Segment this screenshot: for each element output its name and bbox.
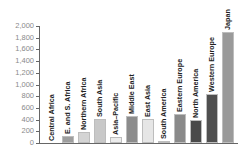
bar-label: East Asia	[144, 85, 152, 117]
y-tick	[36, 26, 40, 27]
bar-japan	[222, 32, 234, 143]
y-tick	[36, 73, 40, 74]
bar-east-asia	[142, 119, 154, 143]
y-tick-label: 200	[4, 127, 34, 135]
bar-label: Central Africa	[48, 94, 56, 141]
y-tick	[36, 61, 40, 62]
bar-south-asia	[94, 119, 106, 143]
y-tick	[36, 96, 40, 97]
y-tick-label: 0	[4, 139, 34, 147]
y-tick	[36, 131, 40, 132]
bar-eastern-europe	[174, 114, 186, 143]
y-tick-label: 600	[4, 104, 34, 112]
y-tick-label: 1,600	[4, 45, 34, 53]
y-tick-label: 1,200	[4, 69, 34, 77]
y-tick	[36, 38, 40, 39]
bar-label: E. and S. Africa	[64, 82, 72, 134]
bar-north-america	[190, 120, 202, 143]
bar-label: Japan	[224, 9, 232, 30]
bar-e-and-s-africa	[62, 136, 74, 143]
bar-label: North America	[192, 69, 200, 118]
y-tick	[36, 85, 40, 86]
y-tick-label: 800	[4, 92, 34, 100]
y-tick-label: 2,000	[4, 22, 34, 30]
x-axis-line	[39, 143, 238, 144]
bar-asia-pacific	[110, 137, 122, 143]
y-tick	[36, 49, 40, 50]
y-tick-label: 1,800	[4, 34, 34, 42]
bar-south-america	[158, 141, 170, 143]
bar-label: Eastern Europe	[176, 59, 184, 112]
bar-label: South Asia	[96, 80, 104, 117]
bar-label: Middle East	[128, 74, 136, 114]
bar-label: Asia–Pacific	[112, 93, 120, 135]
bar-label: Northern Africa	[80, 78, 88, 130]
bar-western-europe	[206, 94, 218, 143]
bar-northern-africa	[78, 132, 90, 143]
bar-label: South America	[160, 89, 168, 139]
y-tick-label: 1,400	[4, 57, 34, 65]
y-tick	[36, 108, 40, 109]
bar-chart: 02004006008001,0001,2001,4001,6001,8002,…	[0, 0, 242, 147]
y-tick	[36, 120, 40, 121]
y-tick-label: 1,000	[4, 81, 34, 89]
bar-label: Western Europe	[208, 37, 216, 92]
bar-middle-east	[126, 116, 138, 143]
y-tick-label: 400	[4, 116, 34, 124]
